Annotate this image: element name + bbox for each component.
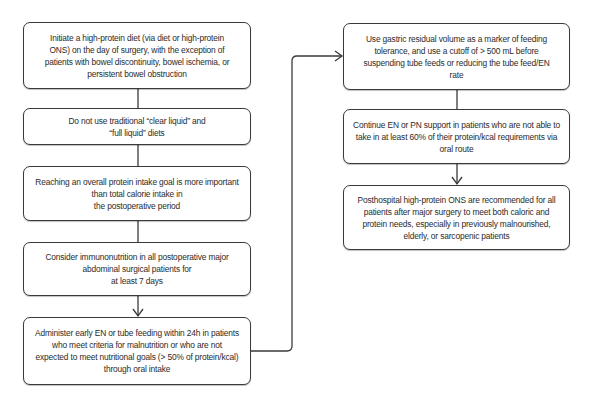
step-continue-en-pn: Continue EN or PN support in patients wh… xyxy=(343,109,570,164)
step-text: Posthospital high-protein ONS are recomm… xyxy=(358,194,556,242)
step-immunonutrition: Consider immunonutrition in all postoper… xyxy=(23,242,251,296)
arrowhead-4-5 xyxy=(133,309,143,316)
step-protein-intake-goal: Reaching an overall protein intake goal … xyxy=(23,166,251,221)
step-text: Continue EN or PN support in patients wh… xyxy=(353,119,560,155)
step-text: Administer early EN or tube feeding with… xyxy=(35,327,239,375)
step-text: Do not use traditional “clear liquid” an… xyxy=(68,115,205,139)
step-no-clear-liquid-diets: Do not use traditional “clear liquid” an… xyxy=(23,108,251,145)
step-text: Use gastric residual volume as a marker … xyxy=(363,33,549,81)
arrowhead-r2-r3 xyxy=(452,177,462,184)
step-early-en-tube-feeding: Administer early EN or tube feeding with… xyxy=(23,317,251,385)
arrowhead-elbow xyxy=(335,51,342,61)
step-initiate-high-protein-diet: Initiate a high-protein diet (via diet o… xyxy=(23,22,251,89)
step-gastric-residual-volume: Use gastric residual volume as a marker … xyxy=(343,23,570,90)
step-posthospital-ons: Posthospital high-protein ONS are recomm… xyxy=(343,185,570,250)
connector-elbow xyxy=(251,56,342,351)
step-text: Initiate a high-protein diet (via diet o… xyxy=(45,32,230,80)
step-text: Consider immunonutrition in all postoper… xyxy=(45,251,228,287)
step-text: Reaching an overall protein intake goal … xyxy=(35,176,238,212)
